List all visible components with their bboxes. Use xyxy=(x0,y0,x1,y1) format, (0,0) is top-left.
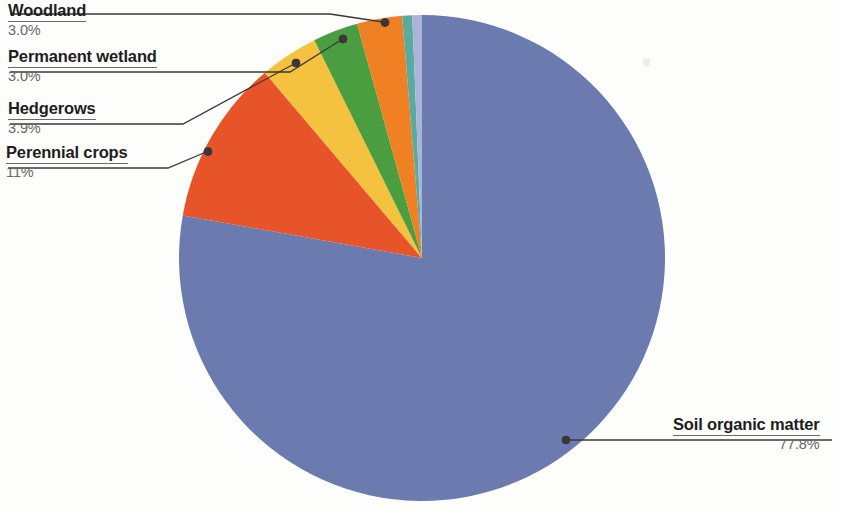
leader-dot-permanent-wetland xyxy=(339,35,347,43)
callout-percent-woodland: 3.0% xyxy=(8,23,86,39)
callout-perennial-crops: Perennial crops 11% xyxy=(6,144,128,181)
leader-dot-woodland xyxy=(381,19,389,27)
callout-label-woodland: Woodland xyxy=(8,2,86,19)
callout-label-soil-organic-matter: Soil organic matter xyxy=(673,416,820,433)
leader-dot-hedgerows xyxy=(292,59,300,67)
pie-chart-figure: Woodland 3.0% Permanent wetland 3.0% Hed… xyxy=(0,0,841,512)
callout-permanent-wetland: Permanent wetland 3.0% xyxy=(8,48,157,85)
pie-slices-group xyxy=(179,15,665,501)
leader-dot-perennial-crops xyxy=(204,148,212,156)
callout-label-perennial-crops: Perennial crops xyxy=(6,144,128,161)
callout-soil-organic-matter: Soil organic matter 77.8% xyxy=(673,416,820,453)
callout-percent-permanent-wetland: 3.0% xyxy=(8,69,157,85)
callout-label-hedgerows: Hedgerows xyxy=(8,100,96,117)
scan-artifact xyxy=(643,58,650,66)
callout-percent-hedgerows: 3.9% xyxy=(8,121,96,137)
callout-hedgerows: Hedgerows 3.9% xyxy=(8,100,96,137)
callout-percent-soil-organic-matter: 77.8% xyxy=(673,437,820,453)
callout-percent-perennial-crops: 11% xyxy=(6,165,128,181)
callout-label-permanent-wetland: Permanent wetland xyxy=(8,48,157,65)
callout-woodland: Woodland 3.0% xyxy=(8,2,86,39)
leader-dot-soil-organic-matter xyxy=(562,436,570,444)
